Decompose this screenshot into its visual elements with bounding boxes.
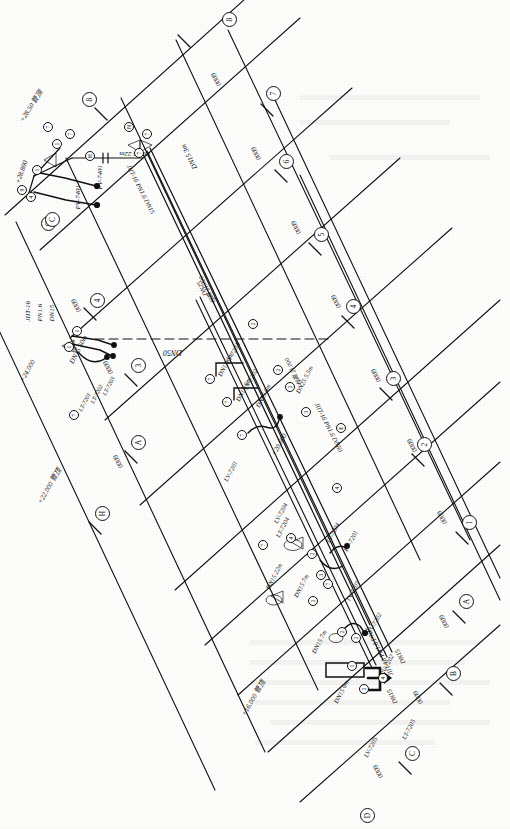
- instrument-bubble-2[interactable]: 2: [359, 684, 369, 694]
- grid-column-bubble-2[interactable]: 2: [417, 437, 432, 452]
- instrument-bubble-7[interactable]: 7: [323, 579, 333, 589]
- instrument-bubble-2[interactable]: 2: [337, 627, 347, 637]
- grid-row-bubble-h[interactable]: H: [95, 506, 110, 521]
- instrument-bubble-4[interactable]: 4: [26, 192, 36, 202]
- instrument-bubble-9[interactable]: 9: [17, 185, 27, 195]
- instrument-bubble-7[interactable]: 7: [65, 129, 75, 139]
- instrument-bubble-7[interactable]: 7: [222, 397, 232, 407]
- grid-row-bubble-8[interactable]: 8: [82, 92, 97, 107]
- grid-row-bubble-b[interactable]: B: [446, 666, 461, 681]
- grid-row-bubble-4[interactable]: 4: [90, 293, 105, 308]
- instrument-bubble-4[interactable]: 4: [378, 673, 388, 683]
- instrument-bubble-2[interactable]: 2: [285, 382, 295, 392]
- spec-note-1-line3: DN15: [49, 305, 56, 322]
- instrument-bubble-4[interactable]: 4: [332, 483, 342, 493]
- grid-lines-family-b: [5, 0, 500, 802]
- instrument-bubble-h[interactable]: H: [85, 151, 95, 161]
- pipe-label-4: DN50: [163, 348, 182, 356]
- instrument-bubble-1[interactable]: 1: [72, 326, 82, 336]
- grid-column-bubble-7[interactable]: 7: [266, 86, 281, 101]
- grid-column-bubble-1[interactable]: 1: [462, 515, 477, 530]
- grid-node-ticks: [84, 35, 468, 774]
- instrument-bubble-3[interactable]: 3: [316, 570, 326, 580]
- spec-note-1-line1: JIIT-16: [25, 301, 32, 321]
- grid-column-bubble-5[interactable]: 5: [314, 227, 329, 242]
- instrument-bubble-4[interactable]: 4: [286, 533, 296, 543]
- instrument-bubble-7[interactable]: 7: [142, 129, 152, 139]
- instrument-bubble-2[interactable]: 2: [307, 549, 317, 559]
- tag-pv-7401-b: PV-7401: [75, 185, 82, 210]
- grid-row-bubble-c[interactable]: C: [405, 746, 420, 761]
- instrument-bubble-2[interactable]: 2: [273, 365, 283, 375]
- instrument-bubble-7[interactable]: 7: [258, 540, 268, 550]
- spec-note-1-line2: PN1.6: [37, 304, 44, 322]
- grid-row-bubble-c[interactable]: C: [45, 212, 60, 227]
- tag-pv-7401-a: PV-7401: [97, 165, 104, 190]
- instrument-bubble-1[interactable]: 1: [347, 661, 357, 671]
- instrument-bubble-2[interactable]: 2: [248, 319, 258, 329]
- instrument-bubble-3[interactable]: 3: [301, 407, 311, 417]
- grid-column-bubble-4[interactable]: 4: [346, 299, 361, 314]
- grid-column-bubble-3[interactable]: 3: [386, 371, 401, 386]
- instrument-bubble-e[interactable]: E: [336, 423, 346, 433]
- grid-row-bubble-a[interactable]: A: [459, 594, 474, 609]
- instrument-bubble-1[interactable]: 1: [64, 342, 74, 352]
- instrument-bubble-1[interactable]: 1: [32, 165, 42, 175]
- grid-row-bubble-d[interactable]: D: [360, 808, 375, 823]
- grid-column-bubble-8[interactable]: 8: [222, 12, 237, 27]
- instrument-bubble-2[interactable]: 2: [308, 596, 318, 606]
- instrument-bubble-1[interactable]: 1: [52, 139, 62, 149]
- instrument-bubble-7[interactable]: 7: [205, 374, 215, 384]
- instrument-bubble-2[interactable]: 2: [351, 633, 361, 643]
- instrument-bubble-7[interactable]: 7: [69, 410, 79, 420]
- instrument-bubble-n[interactable]: N: [124, 122, 134, 132]
- grid-column-bubble-6[interactable]: 6: [279, 154, 294, 169]
- drawing-sheet: JIIT-16 PN1.6 DN15 JIIT-16 PN1.6 DN15 JI…: [0, 0, 510, 829]
- grid-row-bubble-a[interactable]: A: [131, 435, 146, 450]
- grid-row-bubble-3[interactable]: 3: [131, 358, 146, 373]
- instrument-bubble-7[interactable]: 7: [134, 148, 144, 158]
- instrument-bubble-7[interactable]: 7: [43, 122, 53, 132]
- instrument-bubble-7[interactable]: 7: [237, 430, 247, 440]
